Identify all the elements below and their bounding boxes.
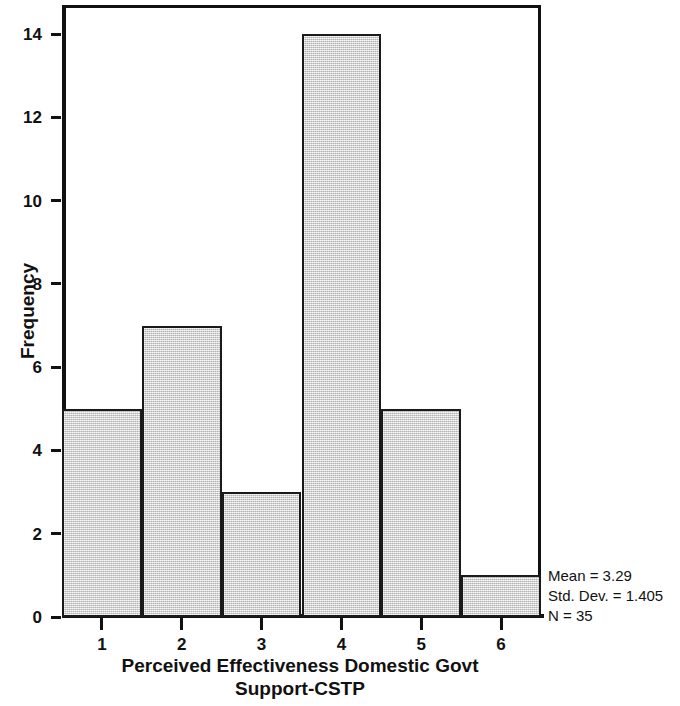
y-axis-tick-label: 10: [2, 193, 42, 210]
x-axis-tick: [500, 618, 503, 630]
y-axis-tick: [51, 449, 61, 452]
x-axis-tick-label: 5: [401, 636, 441, 653]
histogram-bar: [142, 326, 222, 617]
y-axis-tick: [51, 116, 61, 119]
statistics-annotation: Mean = 3.29 Std. Dev. = 1.405 N = 35: [548, 566, 663, 626]
y-axis-tick-label: 14: [2, 26, 42, 43]
y-axis-tick: [51, 366, 61, 369]
y-axis-tick: [51, 199, 61, 202]
y-axis-tick: [51, 282, 61, 285]
x-axis-title: Perceived Effectiveness Domestic Govt Su…: [40, 654, 560, 700]
histogram-bar: [381, 409, 461, 617]
histogram-bar: [222, 492, 302, 617]
histogram-bar: [302, 34, 382, 617]
x-axis-tick: [340, 618, 343, 630]
y-axis-tick-label: 2: [2, 526, 42, 543]
x-axis-title-line-2: Support-CSTP: [40, 677, 560, 700]
mean-label: Mean = 3.29: [548, 566, 663, 586]
x-axis-title-line-1: Perceived Effectiveness Domestic Govt: [122, 655, 479, 676]
x-axis-tick-label: 4: [321, 636, 361, 653]
y-axis-tick: [51, 532, 61, 535]
y-axis-tick-label: 4: [2, 442, 42, 459]
x-axis-tick-label: 6: [481, 636, 521, 653]
x-axis-tick: [420, 618, 423, 630]
y-axis-title: Frequency: [17, 221, 39, 401]
x-axis-tick: [260, 618, 263, 630]
histogram-figure: 02468101214 Frequency 123456 Perceived E…: [0, 0, 680, 706]
x-axis-tick: [100, 618, 103, 630]
y-axis-tick: [51, 33, 61, 36]
histogram-bar: [461, 575, 541, 617]
sample-size-label: N = 35: [548, 606, 663, 626]
y-axis-tick-label: 0: [2, 609, 42, 626]
std-dev-label: Std. Dev. = 1.405: [548, 586, 663, 606]
x-axis-tick-label: 1: [82, 636, 122, 653]
x-axis-tick: [180, 618, 183, 630]
x-axis-tick-label: 3: [242, 636, 282, 653]
y-axis-tick-label: 12: [2, 109, 42, 126]
y-axis-tick: [51, 616, 61, 619]
x-axis-tick-label: 2: [162, 636, 202, 653]
histogram-bar: [62, 409, 142, 617]
